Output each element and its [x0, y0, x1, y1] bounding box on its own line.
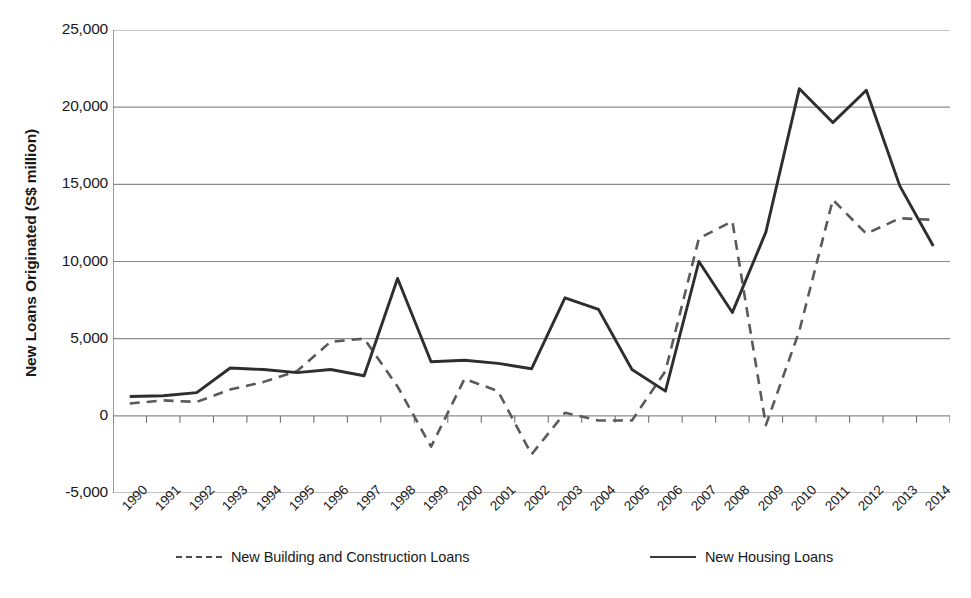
legend-item-housing[interactable]: New Housing Loans	[650, 549, 833, 565]
dashed-line-icon	[176, 556, 222, 558]
plot-area	[113, 30, 950, 493]
y-axis-tick-labels: -5,00005,00010,00015,00020,00025,000	[28, 0, 108, 598]
y-tick-label: 15,000	[34, 174, 108, 192]
plot-svg	[113, 30, 950, 493]
y-tick-label: 20,000	[34, 97, 108, 115]
y-tick-label: 25,000	[34, 20, 108, 38]
loans-line-chart: New Loans Originated (S$ million) -5,000…	[0, 0, 971, 598]
solid-line-icon	[650, 556, 696, 558]
legend-label: New Housing Loans	[705, 549, 833, 565]
series-line-housing	[130, 89, 934, 397]
legend-label: New Building and Construction Loans	[231, 549, 469, 565]
y-tick-label: 10,000	[34, 252, 108, 270]
legend-item-construction[interactable]: New Building and Construction Loans	[176, 549, 469, 565]
y-tick-label: -5,000	[34, 483, 108, 501]
y-tick-label: 5,000	[34, 329, 108, 347]
chart-legend: New Building and Construction LoansNew H…	[0, 549, 971, 579]
y-tick-label: 0	[34, 406, 108, 424]
